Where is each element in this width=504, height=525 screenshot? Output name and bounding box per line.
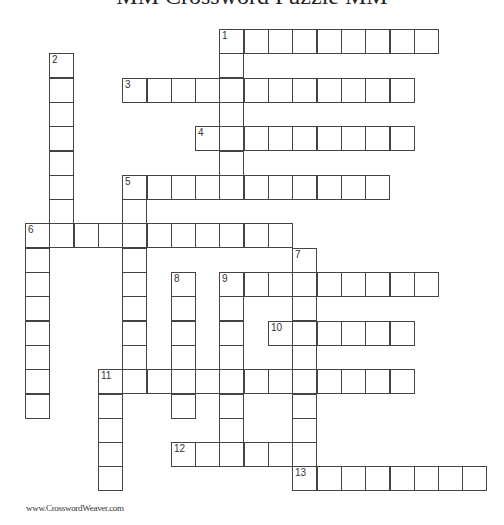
grid-cell[interactable]: [365, 126, 390, 151]
grid-cell[interactable]: [195, 442, 220, 467]
grid-cell[interactable]: [25, 321, 50, 346]
grid-cell[interactable]: [292, 418, 317, 443]
grid-cell[interactable]: [122, 345, 147, 370]
grid-cell[interactable]: [98, 418, 123, 443]
grid-cell[interactable]: [122, 272, 147, 297]
grid-cell[interactable]: 4: [195, 126, 220, 151]
grid-cell[interactable]: [25, 394, 50, 419]
grid-cell[interactable]: [462, 466, 487, 491]
grid-cell[interactable]: [317, 272, 342, 297]
grid-cell[interactable]: [365, 272, 390, 297]
grid-cell[interactable]: [292, 29, 317, 54]
grid-cell[interactable]: [268, 29, 293, 54]
grid-cell[interactable]: [317, 369, 342, 394]
grid-cell[interactable]: [219, 296, 244, 321]
grid-cell[interactable]: [219, 321, 244, 346]
grid-cell[interactable]: 6: [25, 223, 50, 248]
grid-cell[interactable]: [147, 78, 172, 103]
grid-cell[interactable]: [292, 78, 317, 103]
grid-cell[interactable]: [390, 369, 415, 394]
grid-cell[interactable]: [292, 175, 317, 200]
grid-cell[interactable]: [438, 466, 463, 491]
grid-cell[interactable]: [49, 199, 74, 224]
grid-cell[interactable]: [98, 394, 123, 419]
grid-cell[interactable]: [195, 175, 220, 200]
grid-cell[interactable]: 10: [268, 321, 293, 346]
grid-cell[interactable]: [317, 466, 342, 491]
grid-cell[interactable]: [317, 321, 342, 346]
grid-cell[interactable]: [122, 223, 147, 248]
grid-cell[interactable]: [171, 296, 196, 321]
grid-cell[interactable]: [49, 175, 74, 200]
grid-cell[interactable]: [390, 78, 415, 103]
grid-cell[interactable]: 3: [122, 78, 147, 103]
grid-cell[interactable]: [365, 29, 390, 54]
grid-cell[interactable]: [147, 223, 172, 248]
grid-cell[interactable]: [390, 466, 415, 491]
grid-cell[interactable]: 12: [171, 442, 196, 467]
grid-cell[interactable]: [414, 466, 439, 491]
grid-cell[interactable]: [341, 272, 366, 297]
grid-cell[interactable]: [49, 223, 74, 248]
grid-cell[interactable]: 8: [171, 272, 196, 297]
grid-cell[interactable]: 1: [219, 29, 244, 54]
grid-cell[interactable]: [195, 78, 220, 103]
grid-cell[interactable]: [365, 369, 390, 394]
grid-cell[interactable]: [147, 175, 172, 200]
grid-cell[interactable]: [171, 223, 196, 248]
grid-cell[interactable]: [292, 321, 317, 346]
grid-cell[interactable]: [98, 442, 123, 467]
grid-cell[interactable]: [414, 29, 439, 54]
grid-cell[interactable]: 7: [292, 248, 317, 273]
grid-cell[interactable]: [365, 78, 390, 103]
grid-cell[interactable]: [98, 466, 123, 491]
grid-cell[interactable]: [317, 78, 342, 103]
grid-cell[interactable]: [317, 175, 342, 200]
grid-cell[interactable]: [25, 248, 50, 273]
grid-cell[interactable]: [49, 78, 74, 103]
grid-cell[interactable]: [244, 175, 269, 200]
grid-cell[interactable]: [341, 78, 366, 103]
grid-cell[interactable]: [122, 321, 147, 346]
grid-cell[interactable]: 13: [292, 466, 317, 491]
grid-cell[interactable]: [341, 126, 366, 151]
grid-cell[interactable]: [365, 466, 390, 491]
grid-cell[interactable]: [219, 418, 244, 443]
grid-cell[interactable]: [244, 223, 269, 248]
grid-cell[interactable]: [147, 369, 172, 394]
grid-cell[interactable]: [341, 29, 366, 54]
grid-cell[interactable]: [268, 175, 293, 200]
grid-cell[interactable]: [122, 248, 147, 273]
grid-cell[interactable]: 5: [122, 175, 147, 200]
grid-cell[interactable]: [390, 126, 415, 151]
grid-cell[interactable]: [365, 321, 390, 346]
grid-cell[interactable]: [268, 369, 293, 394]
grid-cell[interactable]: [171, 78, 196, 103]
grid-cell[interactable]: 9: [219, 272, 244, 297]
grid-cell[interactable]: [25, 369, 50, 394]
grid-cell[interactable]: [268, 442, 293, 467]
grid-cell[interactable]: [171, 175, 196, 200]
grid-cell[interactable]: [390, 272, 415, 297]
grid-cell[interactable]: [25, 272, 50, 297]
grid-cell[interactable]: [171, 394, 196, 419]
grid-cell[interactable]: [122, 369, 147, 394]
grid-cell[interactable]: [219, 345, 244, 370]
grid-cell[interactable]: [25, 296, 50, 321]
grid-cell[interactable]: [49, 126, 74, 151]
grid-cell[interactable]: [341, 321, 366, 346]
grid-cell[interactable]: [74, 223, 99, 248]
grid-cell[interactable]: [268, 78, 293, 103]
grid-cell[interactable]: [195, 369, 220, 394]
grid-cell[interactable]: [268, 272, 293, 297]
grid-cell[interactable]: [219, 442, 244, 467]
grid-cell[interactable]: [171, 321, 196, 346]
grid-cell[interactable]: [292, 126, 317, 151]
grid-cell[interactable]: [292, 394, 317, 419]
grid-cell[interactable]: [219, 102, 244, 127]
grid-cell[interactable]: [244, 442, 269, 467]
grid-cell[interactable]: [390, 29, 415, 54]
grid-cell[interactable]: [219, 175, 244, 200]
grid-cell[interactable]: 2: [49, 53, 74, 78]
grid-cell[interactable]: [292, 345, 317, 370]
